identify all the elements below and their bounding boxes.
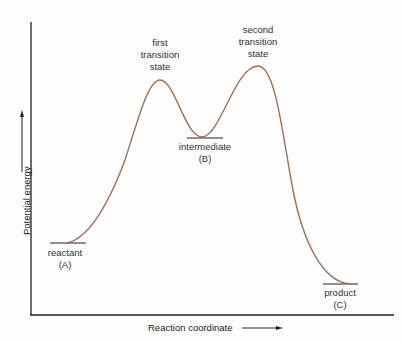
second-transition-state-label: second transition state	[232, 24, 284, 60]
label-line: (A)	[40, 259, 90, 271]
label-line: state	[134, 61, 186, 73]
product-label: product (C)	[315, 287, 365, 311]
label-line: transition	[134, 49, 186, 61]
y-arrow-head-icon	[20, 110, 24, 117]
label-line: (B)	[170, 153, 240, 165]
label-line: transition	[232, 36, 284, 48]
y-axis-label: Potential energy	[21, 166, 32, 235]
x-arrow-head-icon	[276, 326, 283, 330]
label-line: state	[232, 48, 284, 60]
label-line: product	[315, 287, 365, 299]
energy-diagram: first transition state second transition…	[0, 0, 402, 341]
x-axis-label: Reaction coordinate	[148, 322, 233, 333]
first-transition-state-label: first transition state	[134, 37, 186, 73]
label-line: reactant	[40, 247, 90, 259]
label-line: first	[134, 37, 186, 49]
label-line: intermediate	[170, 141, 240, 153]
label-line: second	[232, 24, 284, 36]
intermediate-label: intermediate (B)	[170, 141, 240, 165]
energy-curve	[67, 66, 350, 284]
reactant-label: reactant (A)	[40, 247, 90, 271]
label-line: (C)	[315, 299, 365, 311]
